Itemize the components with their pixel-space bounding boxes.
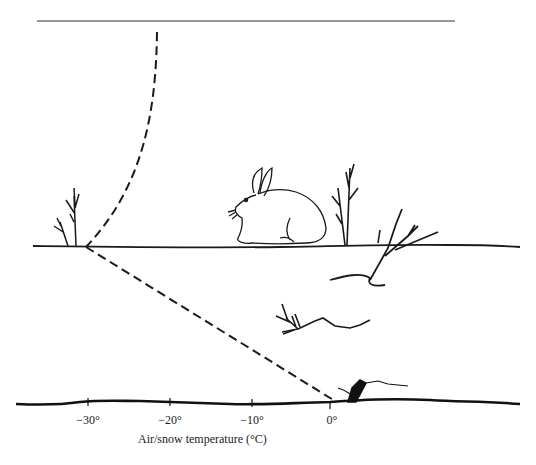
branch-right-icon xyxy=(330,209,438,286)
snow-temperature-gradient xyxy=(86,247,335,401)
twig-left-icon xyxy=(54,188,79,246)
tick-label-minus-30: −30° xyxy=(76,413,100,428)
tick-label-minus-20: −20° xyxy=(158,413,182,428)
snow-surface-line xyxy=(33,245,520,248)
air-temperature-curve xyxy=(86,32,157,247)
ground-surface-line xyxy=(16,399,520,404)
x-axis-title: Air/snow temperature (°C) xyxy=(138,432,267,447)
diagram-canvas xyxy=(0,0,536,465)
twig-center-icon xyxy=(332,164,380,245)
tick-label-minus-10: −10° xyxy=(240,413,264,428)
snowshoe-hare-icon xyxy=(228,168,326,244)
buried-branch-icon xyxy=(276,304,370,334)
tick-label-zero: 0° xyxy=(327,413,338,428)
